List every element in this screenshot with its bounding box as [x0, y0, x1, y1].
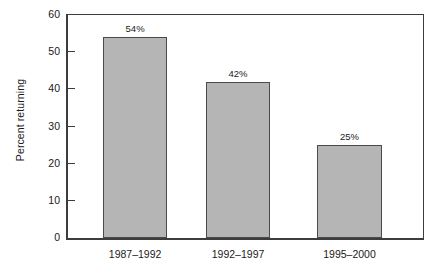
bar-1992-1997[interactable]: 42% 1992–1997: [206, 82, 271, 238]
y-tick-mark: [68, 200, 75, 201]
bar-value-label: 25%: [340, 131, 359, 142]
y-tick-mark: [68, 88, 75, 89]
y-tick-label: 20: [48, 157, 60, 169]
x-tick-label: 1995–2000: [323, 248, 376, 260]
y-tick-mark: [68, 14, 75, 15]
y-tick-label: 40: [48, 82, 60, 94]
y-tick-label: 30: [48, 120, 60, 132]
bar-1995-2000[interactable]: 25% 1995–2000: [317, 145, 382, 238]
plot-area: 60 50 40 30 20 10 0 54% 1987–1992: [66, 14, 424, 240]
bar-value-label: 42%: [229, 68, 248, 79]
x-tick-label: 1992–1997: [212, 248, 265, 260]
bar-chart-figure: Percent returning 60 50 40 30 20 10: [0, 0, 438, 277]
bar-value-label: 54%: [126, 23, 145, 34]
y-tick-label: 60: [48, 8, 60, 20]
y-tick-label: 10: [48, 194, 60, 206]
bar-1987-1992[interactable]: 54% 1987–1992: [103, 37, 168, 238]
y-axis-title-text: Percent returning: [14, 79, 26, 161]
y-tick-mark: [68, 163, 75, 164]
y-tick-mark: [68, 51, 75, 52]
x-tick-label: 1987–1992: [109, 248, 162, 260]
y-tick-label: 50: [48, 45, 60, 57]
y-tick-mark: [68, 126, 75, 127]
y-axis-title: Percent returning: [12, 0, 28, 240]
y-tick-label: 0: [54, 231, 60, 243]
